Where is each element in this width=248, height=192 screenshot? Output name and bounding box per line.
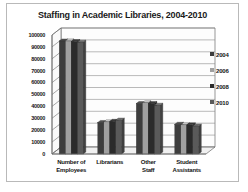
legend-label: 2006 bbox=[216, 68, 229, 74]
legend-swatch-icon bbox=[210, 100, 214, 104]
bar-side-face bbox=[122, 118, 125, 154]
bar-2006-2[interactable] bbox=[142, 103, 148, 154]
bar-2006-1[interactable] bbox=[104, 122, 110, 154]
bar-2004-0[interactable] bbox=[59, 41, 65, 154]
bar-2006-0[interactable] bbox=[65, 41, 71, 154]
bar-2010-3[interactable] bbox=[193, 126, 199, 154]
legend-label: 2004 bbox=[216, 52, 229, 58]
category-label-line: Assistants bbox=[161, 167, 213, 175]
bar-2008-3[interactable] bbox=[187, 125, 193, 154]
bar-2010-0[interactable] bbox=[77, 42, 83, 154]
y-axis-tick-label: 40000 bbox=[9, 103, 45, 109]
y-axis-tick-label: 60000 bbox=[9, 79, 45, 85]
legend-item-2004[interactable]: 2004 bbox=[210, 52, 229, 58]
bar-2008-1[interactable] bbox=[110, 121, 116, 154]
y-axis-tick-label: 10000 bbox=[9, 139, 45, 145]
y-axis-tick-label: 30000 bbox=[9, 115, 45, 121]
y-axis-tick-label: 50000 bbox=[9, 91, 45, 97]
y-axis-tick-label: 70000 bbox=[9, 68, 45, 74]
category-label-line: Student bbox=[161, 159, 213, 167]
legend-swatch-icon bbox=[210, 52, 214, 56]
x-axis-category-label: StudentAssistants bbox=[161, 159, 213, 174]
bar-2008-2[interactable] bbox=[148, 103, 154, 154]
bar-2004-2[interactable] bbox=[136, 103, 142, 154]
bar-2008-0[interactable] bbox=[71, 42, 77, 154]
legend-label: 2008 bbox=[216, 84, 229, 90]
y-axis-tick-label: 100000 bbox=[9, 32, 45, 38]
bar-2004-3[interactable] bbox=[175, 124, 181, 154]
y-axis-tick-label: 20000 bbox=[9, 127, 45, 133]
legend-item-2006[interactable]: 2006 bbox=[210, 68, 229, 74]
bar-2010-1[interactable] bbox=[116, 120, 122, 154]
y-axis-tick-label: 90000 bbox=[9, 44, 45, 50]
category-label-line: Employees bbox=[45, 167, 97, 175]
chart-frame: Staffing in Academic Libraries, 2004-201… bbox=[6, 3, 239, 182]
legend-swatch-icon bbox=[210, 84, 214, 88]
legend-label: 2010 bbox=[216, 100, 229, 106]
legend-item-2010[interactable]: 2010 bbox=[210, 100, 229, 106]
bar-2004-1[interactable] bbox=[98, 122, 104, 154]
bar-side-face bbox=[83, 40, 86, 154]
bar-2010-2[interactable] bbox=[154, 105, 160, 154]
legend-item-2008[interactable]: 2008 bbox=[210, 84, 229, 90]
bar-2006-3[interactable] bbox=[181, 125, 187, 154]
y-axis-tick-label: 0 bbox=[9, 151, 45, 157]
bar-side-face bbox=[160, 103, 163, 154]
bar-side-face bbox=[199, 124, 202, 154]
legend-swatch-icon bbox=[210, 68, 214, 72]
y-axis-tick-label: 80000 bbox=[9, 56, 45, 62]
